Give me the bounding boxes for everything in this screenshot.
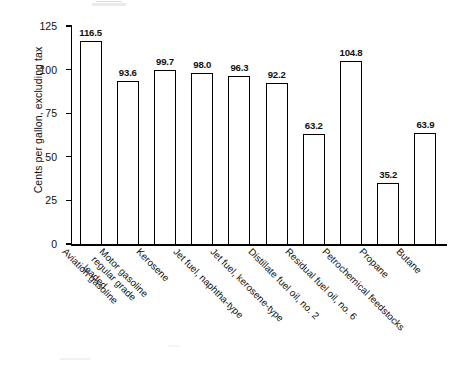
bar-slot: 104.8 — [340, 26, 362, 244]
bar-value-label: 93.6 — [119, 67, 137, 78]
category-label: Propane — [357, 246, 391, 280]
category-label: Jet fuel, kerosene-type — [208, 246, 286, 324]
bar-slot: 35.2 — [377, 26, 399, 244]
bar-slot: 99.7 — [154, 26, 176, 244]
y-tick-label-50: 50 — [45, 151, 57, 163]
bar-slot: 63.2 — [303, 26, 325, 244]
plot-area: 0255075100125 116.593.699.798.096.392.26… — [72, 26, 444, 244]
y-tick-label-0: 0 — [51, 238, 57, 250]
bar-slot: 92.2 — [266, 26, 288, 244]
category-label: Jet fuel, naphtha-type — [171, 246, 246, 321]
bar-value-label: 35.2 — [379, 169, 397, 180]
y-tick-label-25: 25 — [45, 194, 57, 206]
scan-artifact-top-secondary — [96, 1, 122, 2]
bar[interactable] — [414, 133, 436, 244]
bar-value-label: 63.9 — [416, 119, 434, 130]
bar-value-label: 99.7 — [156, 56, 174, 67]
bar[interactable] — [266, 83, 288, 244]
y-tick-label-100: 100 — [39, 64, 57, 76]
bar-value-label: 104.8 — [339, 47, 362, 58]
y-tick-label-75: 75 — [45, 107, 57, 119]
bar[interactable] — [340, 61, 362, 244]
x-axis-category-labels: Aviation gasolineMotor gasoline regular … — [72, 246, 444, 361]
bar-series: 116.593.699.798.096.392.263.2104.835.263… — [72, 26, 444, 244]
bar-value-label: 98.0 — [193, 59, 211, 70]
scan-artifact-top — [92, 3, 126, 6]
bar-value-label: 96.3 — [230, 62, 248, 73]
bar-value-label: 63.2 — [305, 120, 323, 131]
bar[interactable] — [377, 183, 399, 244]
bar-slot: 98.0 — [191, 26, 213, 244]
bar-chart-figure: Cents per gallon, excluding tax 02550751… — [0, 0, 469, 365]
bar-slot: 116.5 — [80, 26, 102, 244]
bar[interactable] — [80, 41, 102, 244]
bar[interactable] — [154, 70, 176, 244]
category-label: Butane — [394, 246, 424, 276]
category-label: Residual fuel oil, no. 6 — [283, 246, 359, 322]
bar-value-label: 92.2 — [268, 69, 286, 80]
y-axis-title: Cents per gallon, excluding tax — [32, 20, 44, 220]
bar-slot: 63.9 — [414, 26, 436, 244]
category-label: Distillate fuel oil, no. 2 — [246, 246, 321, 321]
bar[interactable] — [117, 81, 139, 244]
bar[interactable] — [303, 134, 325, 244]
category-label: Kerosene — [134, 246, 172, 284]
bar[interactable] — [191, 73, 213, 244]
bar-slot: 96.3 — [228, 26, 250, 244]
bar-slot: 93.6 — [117, 26, 139, 244]
bar-value-label: 116.5 — [79, 27, 101, 38]
bar[interactable] — [228, 76, 250, 244]
y-tick-label-125: 125 — [39, 20, 57, 32]
